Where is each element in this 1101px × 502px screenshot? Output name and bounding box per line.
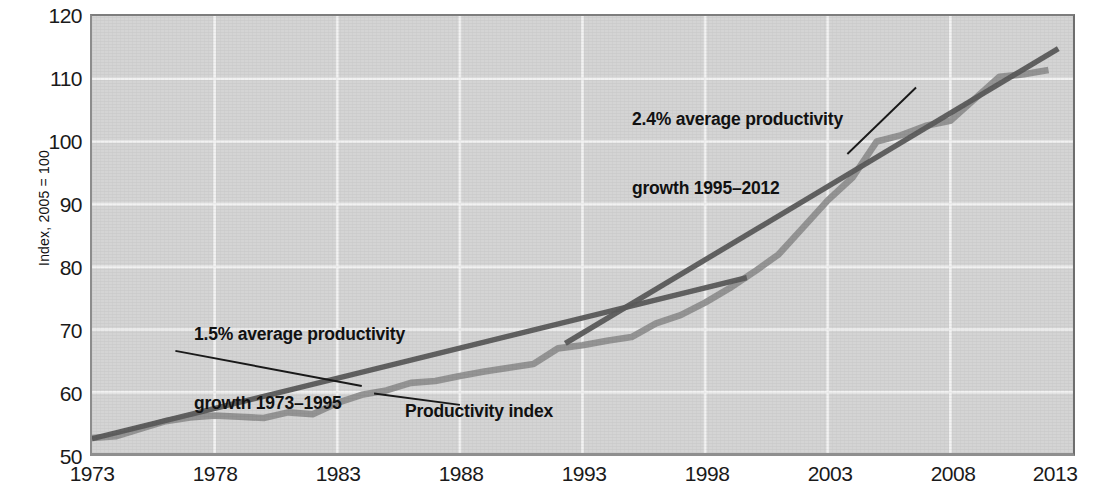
x-axis-tick: 1998 <box>662 462 752 486</box>
x-axis-tick: 1973 <box>47 462 137 486</box>
annotation-trend-1973-1995: 1.5% average productivity growth 1973–19… <box>194 277 405 462</box>
annotation-line: growth 1973–1995 <box>194 392 405 415</box>
x-axis-tick: 1993 <box>539 462 629 486</box>
y-axis-tick: 110 <box>36 67 82 91</box>
y-axis-tick: 80 <box>36 256 82 280</box>
x-axis-tick: 1988 <box>416 462 506 486</box>
y-axis-tick: 60 <box>36 382 82 406</box>
y-axis-tick: 100 <box>36 130 82 154</box>
annotation-series-label: Productivity index <box>405 400 553 423</box>
y-axis-tick-labels: 120 110 100 90 80 70 60 50 <box>30 0 82 502</box>
annotation-line: 2.4% average productivity <box>632 108 843 131</box>
x-axis-tick: 2013 <box>1010 462 1100 486</box>
annotation-trend-1995-2012: 2.4% average productivity growth 1995–20… <box>632 62 843 247</box>
annotation-line: growth 1995–2012 <box>632 177 843 200</box>
y-axis-tick: 90 <box>36 193 82 217</box>
x-axis-tick: 2003 <box>785 462 875 486</box>
chart-figure: Index, 2005 = 100 120 110 100 90 80 70 6… <box>0 0 1101 502</box>
x-axis-tick: 1978 <box>170 462 260 486</box>
x-axis-tick: 2008 <box>908 462 998 486</box>
y-axis-tick: 70 <box>36 319 82 343</box>
annotation-line: 1.5% average productivity <box>194 323 405 346</box>
x-axis-tick: 1983 <box>293 462 383 486</box>
y-axis-tick: 120 <box>36 4 82 28</box>
